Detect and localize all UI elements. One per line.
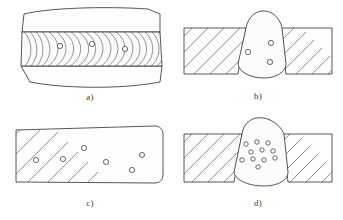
pore <box>244 142 248 146</box>
pore <box>256 165 260 169</box>
pore <box>81 145 86 150</box>
pore <box>271 149 275 153</box>
panel-b-drawing <box>176 2 340 90</box>
pore <box>262 158 266 162</box>
pore <box>240 158 244 162</box>
panel-d-right-plate <box>282 134 332 182</box>
pore <box>103 159 108 164</box>
pore <box>57 43 62 48</box>
panel-a-lower-plate <box>21 66 162 87</box>
pore <box>255 140 259 144</box>
panel-b-left-plate <box>184 28 246 74</box>
pore <box>33 157 38 162</box>
pore <box>129 167 134 172</box>
pore <box>122 46 127 51</box>
panel-c-drawing <box>8 112 172 196</box>
pore <box>249 150 253 154</box>
pore <box>260 148 264 152</box>
panel-b: b) <box>176 2 340 110</box>
panel-c: c) <box>8 112 172 218</box>
pore <box>273 156 277 160</box>
pore <box>89 41 94 46</box>
panel-a-label: a) <box>8 92 172 102</box>
pore <box>251 157 255 161</box>
pore <box>60 156 65 161</box>
panel-d: d) <box>176 112 340 218</box>
panel-d-label: d) <box>176 198 340 208</box>
panel-b-weld-nugget <box>238 11 286 78</box>
panel-b-right-plate <box>280 28 332 74</box>
pore <box>267 59 272 64</box>
panel-d-drawing <box>176 112 340 196</box>
panel-d-left-plate <box>184 134 242 182</box>
pore <box>139 152 144 157</box>
panel-c-label: c) <box>8 198 172 208</box>
panel-a-drawing <box>8 2 172 90</box>
pore <box>245 49 250 54</box>
panel-a-upper-plate <box>22 8 160 32</box>
panel-b-label: b) <box>176 91 340 101</box>
pore <box>266 141 270 145</box>
pore <box>268 40 273 45</box>
panel-a: a) <box>8 2 172 110</box>
figure-root: a) <box>0 0 343 220</box>
